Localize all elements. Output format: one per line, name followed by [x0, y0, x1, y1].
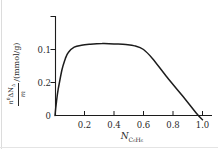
- y-axis-fraction: n0ΔNΔm: [5, 83, 26, 106]
- y-label-deltaN: ΔN: [7, 87, 15, 97]
- x-tick-label-0.2: 0.2: [74, 120, 96, 130]
- y-tick-label-0: 0: [31, 111, 51, 121]
- x-label-N: N: [121, 131, 129, 141]
- x-axis-label: NC₆H₆: [100, 131, 164, 143]
- y-axis-units: /(mmol/g): [12, 43, 21, 82]
- y-label-n: n: [7, 100, 15, 104]
- y-label-sup: 0: [6, 97, 11, 100]
- figure-canvas: n0ΔNΔm /(mmol/g) NC₆H₆ 0.20.40.60.81.000…: [0, 0, 218, 149]
- y-label-denominator: m: [19, 83, 27, 106]
- isotherm-curve: [55, 44, 203, 120]
- tick-marks: [51, 17, 203, 116]
- y-tick-label-0.2: 0.2: [31, 78, 51, 88]
- x-tick-label-0.8: 0.8: [162, 120, 184, 130]
- x-tick-label-0.6: 0.6: [133, 120, 155, 130]
- x-label-sub: C₆H₆: [129, 136, 144, 143]
- x-tick-label-1.0: 1.0: [192, 120, 214, 130]
- y-tick-label-0.1: 0.1: [31, 45, 51, 55]
- y-label-sub: Δ: [12, 84, 17, 87]
- x-tick-label-0.4: 0.4: [103, 120, 125, 130]
- y-axis-label: n0ΔNΔm /(mmol/g): [6, 30, 26, 118]
